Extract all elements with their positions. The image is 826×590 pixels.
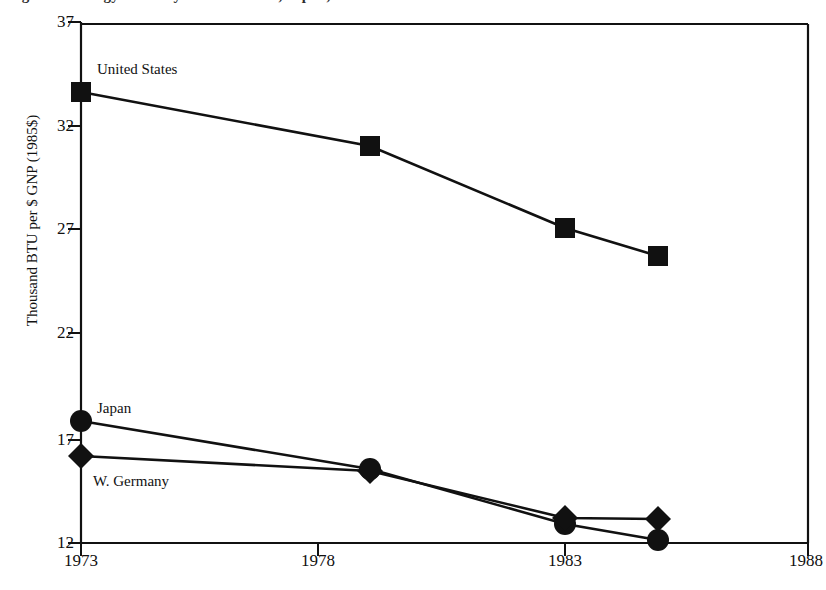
x-axis-ticks bbox=[81, 543, 808, 556]
plot-frame bbox=[81, 22, 808, 543]
chart-figure: Figure 1. Energy Intensity: United State… bbox=[0, 0, 826, 590]
series-markers-united-states bbox=[71, 82, 668, 266]
plot-canvas bbox=[0, 0, 826, 590]
